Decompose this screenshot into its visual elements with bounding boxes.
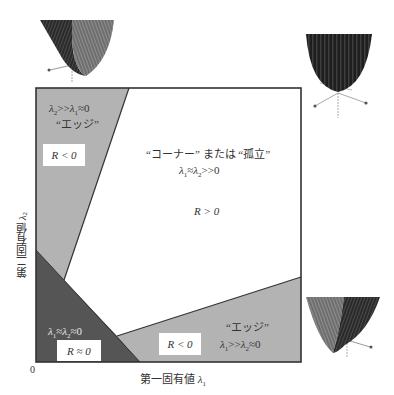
x-axis-text: 第一固有値 <box>140 373 198 385</box>
surface-horizontal-edge-icon <box>306 297 380 358</box>
y-axis-symbol: λ <box>16 216 28 221</box>
y-axis-label: 第二固有値 λ2 <box>10 175 34 315</box>
corner-condition: λ1≈λ2>>0 <box>179 164 220 181</box>
corner-label: “コーナー” または “孤立” <box>146 148 270 160</box>
y-axis-text: 第二固有値 <box>16 220 28 278</box>
surface-vertical-edge-icon <box>40 20 114 82</box>
x-axis-label: 第一固有値 λ1 <box>140 370 206 388</box>
flat-r-badge: R ≈ 0 <box>57 340 101 361</box>
edge-horizontal-r-badge: R < 0 <box>159 333 201 355</box>
edge-vertical-r-badge: R < 0 <box>43 144 85 166</box>
x-axis-sub: 1 <box>203 380 207 388</box>
corner-r-label: R > 0 <box>194 205 219 217</box>
surface-corner-icon <box>306 34 372 118</box>
edge-vertical-condition: λ2>>λ1≈0 <box>49 102 90 119</box>
edge-horizontal-condition: λ1>>λ2≈0 <box>220 338 261 355</box>
edge-vertical-label: “エッジ” <box>56 118 99 130</box>
edge-horizontal-label: “エッジ” <box>226 321 269 333</box>
axis-origin: 0 <box>30 364 35 375</box>
y-axis-sub: 2 <box>21 212 29 216</box>
